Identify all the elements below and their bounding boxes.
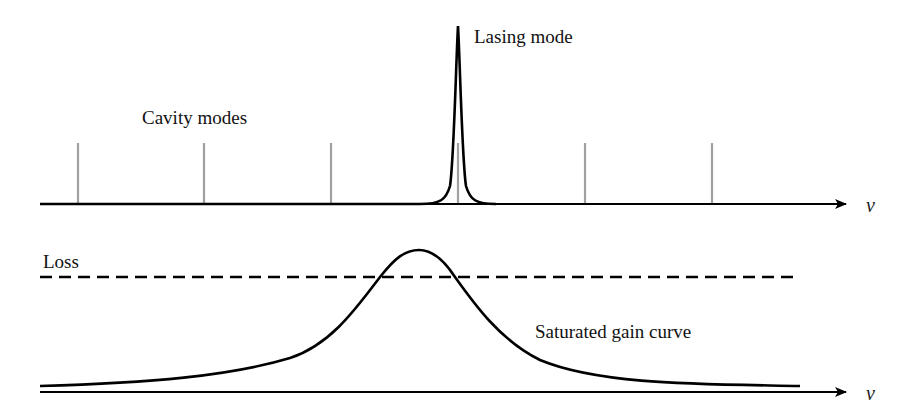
- top-panel: Cavity modes Lasing mode ν: [40, 26, 875, 216]
- top-axis-nu-label: ν: [866, 194, 875, 216]
- bottom-axis-nu-label: ν: [866, 382, 875, 404]
- lasing-mode-peak: [40, 26, 496, 204]
- laser-mode-diagram: Cavity modes Lasing mode ν Loss Saturate…: [0, 0, 914, 416]
- cavity-modes-label: Cavity modes: [142, 107, 247, 128]
- saturated-gain-curve-label: Saturated gain curve: [535, 321, 691, 342]
- saturated-gain-curve: [40, 250, 800, 386]
- lasing-mode-label: Lasing mode: [474, 26, 573, 47]
- bottom-panel: Loss Saturated gain curve ν: [40, 250, 875, 404]
- loss-label: Loss: [43, 251, 79, 272]
- cavity-modes: [78, 143, 712, 204]
